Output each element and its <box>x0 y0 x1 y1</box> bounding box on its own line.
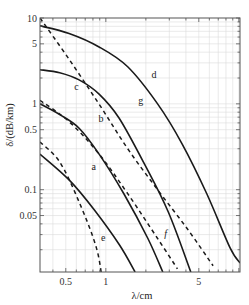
x-tick-label: 5 <box>196 276 201 287</box>
y-tick-label: 0.1 <box>25 184 38 195</box>
y-tick-label: 0.5 <box>25 124 38 135</box>
curve-b <box>40 104 163 272</box>
curve-label-e: e <box>101 232 106 243</box>
curve-label-c: c <box>74 81 79 92</box>
plot-frame <box>40 18 240 272</box>
curve-label-f: f <box>164 228 168 239</box>
curve-c <box>40 70 191 272</box>
x-axis-label: λ/cm <box>132 290 153 301</box>
curve-label-a: a <box>91 161 96 172</box>
x-tick-label: 1 <box>103 276 108 287</box>
attenuation-chart: 0.51510510.50.10.05 abcdefg λ/cm δ/(dB/k… <box>0 0 249 305</box>
y-axis-label: δ/(dB/km) <box>4 103 16 147</box>
x-tick-label: 0.5 <box>60 276 73 287</box>
curve-labels: abcdefg <box>74 69 168 243</box>
y-tick-label: 0.05 <box>20 210 38 221</box>
y-tick-label: 10 <box>27 13 37 24</box>
curve-label-b: b <box>98 113 103 124</box>
curve-f <box>40 100 177 268</box>
y-tick-label: 5 <box>32 38 37 49</box>
grid-lines <box>40 18 240 272</box>
curve-label-g: g <box>138 95 143 106</box>
curves <box>40 18 240 296</box>
y-tick-label: 1 <box>32 98 37 109</box>
curve-label-d: d <box>151 69 156 80</box>
axis-ticks: 0.51510510.50.10.05 <box>20 13 241 288</box>
curve-a <box>40 154 135 272</box>
